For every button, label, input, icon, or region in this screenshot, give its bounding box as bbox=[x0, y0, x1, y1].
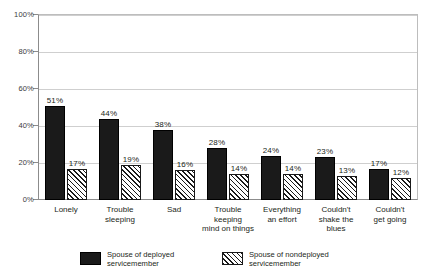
bar-0-0 bbox=[45, 106, 65, 200]
bar-value-1-1: 19% bbox=[115, 155, 147, 164]
bar-1-6 bbox=[391, 178, 411, 200]
bar-1-3 bbox=[229, 174, 249, 200]
bar-1-4 bbox=[283, 174, 303, 200]
bar-value-0-6: 17% bbox=[363, 159, 395, 168]
bar-value-1-0: 17% bbox=[61, 159, 93, 168]
bar-value-0-0: 51% bbox=[39, 96, 71, 105]
y-tick-label-20: 20% bbox=[2, 158, 34, 167]
y-tick-label-60: 60% bbox=[2, 84, 34, 93]
bar-value-1-3: 14% bbox=[223, 164, 255, 173]
bars-layer: 51%17%44%19%38%16%28%14%24%14%23%13%17%1… bbox=[39, 15, 417, 200]
bar-value-1-4: 14% bbox=[277, 164, 309, 173]
y-tick-label-100: 100% bbox=[2, 10, 34, 19]
legend-item-nondeployed: Spouse of nondeployed servicemember bbox=[222, 250, 329, 274]
bar-0-4 bbox=[261, 156, 281, 200]
bar-value-0-5: 23% bbox=[309, 147, 341, 156]
bar-value-1-5: 13% bbox=[331, 166, 363, 175]
legend-label-deployed: Spouse of deployed servicemember bbox=[107, 250, 174, 269]
bar-value-0-1: 44% bbox=[93, 109, 125, 118]
bar-value-0-2: 38% bbox=[147, 120, 179, 129]
bar-1-0 bbox=[67, 169, 87, 200]
y-tick-label-0: 0% bbox=[2, 195, 34, 204]
legend-label-nondeployed: Spouse of nondeployed servicemember bbox=[249, 250, 329, 269]
legend-swatch-solid-icon bbox=[80, 252, 101, 265]
legend: Spouse of deployed servicemember Spouse … bbox=[0, 250, 435, 276]
bar-value-1-2: 16% bbox=[169, 160, 201, 169]
bar-0-5 bbox=[315, 157, 335, 200]
legend-swatch-hatched-icon bbox=[222, 252, 243, 265]
bar-value-0-4: 24% bbox=[255, 146, 287, 155]
bar-chart: 100% 80% 60% 40% 20% 0% 51%17%44%19%38%1… bbox=[0, 0, 435, 278]
bar-0-3 bbox=[207, 148, 227, 200]
bar-1-1 bbox=[121, 165, 141, 200]
legend-item-deployed: Spouse of deployed servicemember bbox=[80, 250, 174, 274]
bar-value-0-3: 28% bbox=[201, 138, 233, 147]
y-tick-label-80: 80% bbox=[2, 47, 34, 56]
bar-value-1-6: 12% bbox=[385, 168, 417, 177]
bar-1-5 bbox=[337, 176, 357, 200]
y-tick-label-40: 40% bbox=[2, 121, 34, 130]
x-category-label-6: Couldn't get going bbox=[357, 205, 423, 224]
bar-1-2 bbox=[175, 170, 195, 200]
